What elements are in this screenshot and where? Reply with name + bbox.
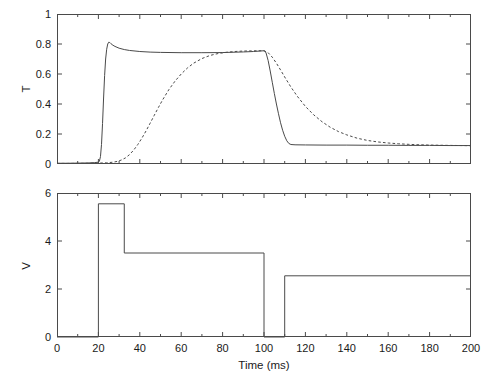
y-tick-label: 0.2 [13, 129, 51, 140]
bottom-plot-panel: 0204060801001201401601802000246 V Time (… [0, 188, 494, 376]
y-tick-label: 0 [13, 159, 51, 170]
y-tick-label: 6 [13, 188, 51, 199]
y-tick-label: 2 [13, 284, 51, 295]
x-tick-label: 60 [175, 343, 187, 354]
x-tick-label: 20 [92, 343, 104, 354]
x-tick-label: 40 [134, 343, 146, 354]
x-axis-title: Time (ms) [238, 359, 289, 371]
x-tick-label: 120 [296, 343, 314, 354]
y-tick-label: 0.6 [13, 69, 51, 80]
y-tick-label: 4 [13, 236, 51, 247]
x-tick-label: 140 [338, 343, 356, 354]
x-tick-label: 0 [54, 343, 60, 354]
top-plot-y-axis-title: T [20, 77, 32, 101]
y-tick-label: 1 [13, 9, 51, 20]
x-tick-label: 200 [462, 343, 480, 354]
x-tick-label: 160 [379, 343, 397, 354]
bottom-plot-y-axis-title: V [20, 254, 32, 278]
figure-canvas: 00.20.40.60.81 T 02040608010012014016018… [0, 0, 494, 376]
x-tick-label: 100 [255, 343, 273, 354]
y-tick-label: 0.4 [13, 99, 51, 110]
top-plot-panel: 00.20.40.60.81 T [0, 0, 494, 188]
x-tick-label: 180 [420, 343, 438, 354]
top-plot-drawing [0, 0, 494, 188]
y-tick-label: 0.8 [13, 39, 51, 50]
y-tick-label: 0 [13, 332, 51, 343]
x-tick-label: 80 [216, 343, 228, 354]
